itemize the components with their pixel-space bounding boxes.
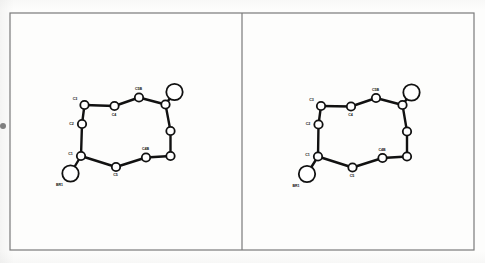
atom-label-c5b: C5B [135,87,143,91]
atom-label-c1: C1 [305,153,310,157]
atom-label-br1: BR1 [56,183,63,187]
atom-unlabeled [166,127,174,135]
atom-c5b [135,93,143,101]
atom-unlabeled [403,127,411,135]
atom-br1 [299,166,315,182]
atom-unlabeled [166,152,174,160]
atom-unlabeled [166,84,182,100]
panel-right-view: C3C2C1BR1C5C4BC5BC4 [292,84,419,187]
atom-c2 [78,120,86,128]
atom-unlabeled [398,101,406,109]
atom-label-c3: C3 [309,98,314,102]
scanned-figure-page: C3C2C1BR1C5C4BC5BC4 C3C2C1BR1C5C4BC5BC4 [0,0,485,263]
stereo-pair-figure: C3C2C1BR1C5C4BC5BC4 C3C2C1BR1C5C4BC5BC4 [0,0,485,263]
atom-label-br1: BR1 [292,184,299,188]
atom-br1 [62,165,78,181]
atom-label-c4: C4 [112,113,117,117]
atom-label-c4b: C4B [142,147,150,151]
atom-c4b [142,153,150,161]
atom-unlabeled [403,152,411,160]
atom-c3 [317,102,325,110]
atom-label-c4: C4 [348,113,353,117]
atom-label-c5b: C5B [372,88,380,92]
atom-c4b [378,154,386,162]
bond-line [318,157,353,168]
atom-label-c3: C3 [73,97,78,101]
atom-c5 [348,163,356,171]
bond-line [81,156,116,167]
atom-label-c4b: C4B [378,148,386,152]
atom-c1 [77,152,85,160]
panel-left-view: C3C2C1BR1C5C4BC5BC4 [56,84,183,187]
atom-c4 [110,102,118,110]
atom-label-c2: C2 [306,122,311,126]
atom-c3 [80,101,88,109]
atom-unlabeled [403,84,419,100]
atom-c2 [314,120,322,128]
atom-unlabeled [161,100,169,108]
atom-c5 [112,163,120,171]
atom-label-c5: C5 [113,173,118,177]
atom-label-c1: C1 [68,152,73,156]
atom-c5b [372,94,380,102]
atom-c1 [314,152,322,160]
atom-label-c2: C2 [69,122,74,126]
atom-label-c5: C5 [350,174,355,178]
atom-c4 [347,102,355,110]
